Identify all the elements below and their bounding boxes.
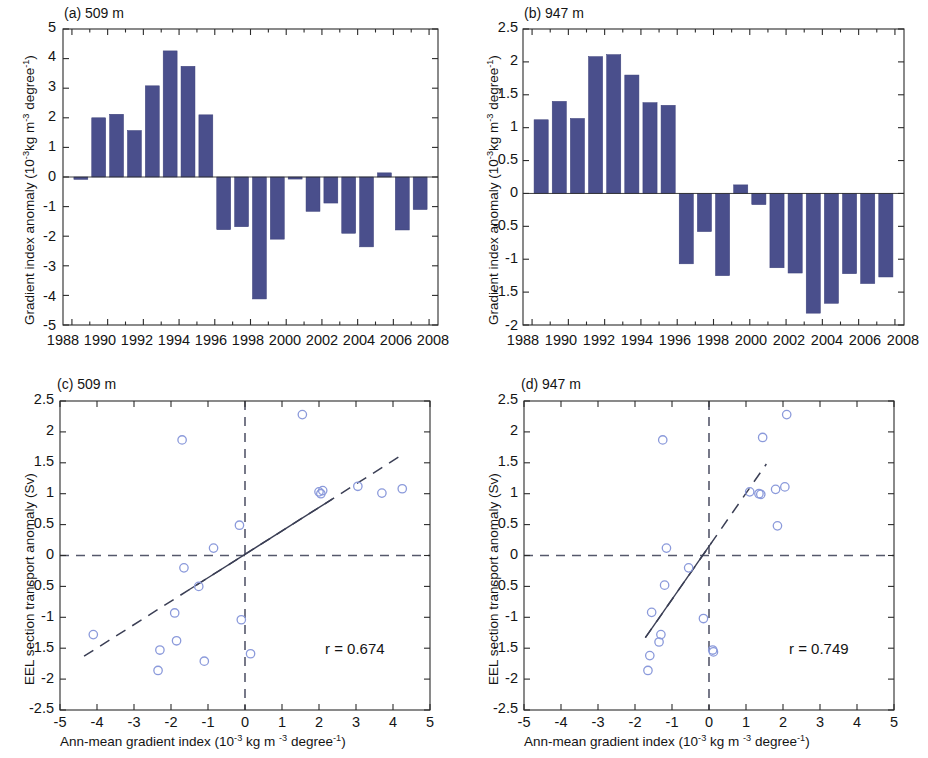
panel-d-plot — [464, 365, 928, 758]
panel-c: (c) 509 m EEL section transport anomaly … — [0, 365, 464, 758]
scatter-point — [781, 483, 789, 491]
bar-1995 — [199, 115, 213, 177]
scatter-point — [644, 666, 652, 674]
bar-1991 — [589, 57, 603, 194]
scatter-point — [298, 410, 306, 418]
scatter-point — [172, 637, 180, 645]
scatter-point — [660, 581, 668, 589]
bar-1996 — [679, 193, 693, 263]
scatter-point — [398, 485, 406, 493]
scatter-point — [647, 608, 655, 616]
bar-1999 — [270, 177, 284, 239]
bar-1996 — [217, 177, 231, 230]
bar-1998 — [252, 177, 266, 299]
scatter-point — [154, 666, 162, 674]
bar-2000 — [752, 193, 766, 204]
scatter-point — [209, 544, 217, 552]
scatter-point — [237, 616, 245, 624]
panel-c-plot — [0, 365, 464, 758]
panel-b: (b) 947 m Gradient index anomaly (10-3kg… — [464, 0, 928, 365]
scatter-point — [684, 564, 692, 572]
bar-1992 — [607, 55, 621, 194]
bar-1998 — [716, 193, 730, 275]
scatter-point — [771, 485, 779, 493]
bar-2004 — [360, 177, 374, 247]
bar-1994 — [643, 103, 657, 194]
scatter-point — [659, 436, 667, 444]
scatter-point — [171, 609, 179, 617]
bar-1994 — [181, 66, 195, 177]
panel-d: (d) 947 m EEL section transport anomaly … — [464, 365, 928, 758]
scatter-point — [200, 657, 208, 665]
scatter-point — [378, 489, 386, 497]
bar-2003 — [806, 193, 820, 313]
regression-line-solid-segment — [645, 542, 712, 638]
panel-a: (a) 509 m Gradient index anomaly (10-3kg… — [0, 0, 464, 365]
scatter-point — [235, 521, 243, 529]
scatter-point — [646, 651, 654, 659]
bar-1997 — [235, 177, 249, 227]
figure-canvas: (a) 509 m Gradient index anomaly (10-3kg… — [0, 0, 928, 758]
bar-2004 — [824, 193, 838, 303]
bar-2007 — [413, 177, 427, 210]
scatter-point — [89, 630, 97, 638]
bar-2005 — [843, 193, 857, 273]
scatter-point — [783, 410, 791, 418]
bar-2001 — [306, 177, 320, 211]
scatter-point — [758, 433, 766, 441]
bar-2003 — [342, 177, 356, 233]
bar-1990 — [110, 114, 124, 177]
scatter-point — [156, 646, 164, 654]
scatter-point — [773, 522, 781, 530]
bar-1999 — [734, 185, 748, 194]
bar-2006 — [861, 193, 875, 283]
bar-2001 — [770, 193, 784, 267]
bar-1993 — [625, 75, 639, 193]
bar-2002 — [788, 193, 802, 273]
bar-1990 — [570, 118, 584, 193]
scatter-point — [662, 544, 670, 552]
bar-2002 — [324, 177, 338, 203]
bar-2006 — [395, 177, 409, 230]
bar-2007 — [879, 193, 893, 277]
bar-2005 — [377, 173, 391, 177]
scatter-point — [246, 650, 254, 658]
panel-a-plot — [0, 0, 464, 365]
bar-1988 — [534, 120, 548, 194]
scatter-point — [180, 564, 188, 572]
bar-1992 — [145, 86, 159, 177]
bar-1997 — [697, 193, 711, 231]
bar-1989 — [92, 118, 106, 177]
bar-1989 — [552, 101, 566, 193]
bar-1993 — [163, 51, 177, 177]
scatter-point — [699, 614, 707, 622]
bar-1995 — [661, 105, 675, 193]
scatter-point — [178, 436, 186, 444]
panel-b-plot — [464, 0, 928, 365]
bar-1991 — [127, 131, 141, 177]
